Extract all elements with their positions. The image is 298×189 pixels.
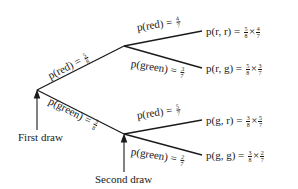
branch-green-red — [124, 120, 202, 134]
second-draw-caption: Second draw — [95, 173, 152, 185]
outcome-rg: p(r, g) = 58×37 — [206, 63, 263, 76]
fraction: 47 — [175, 15, 181, 28]
outcome-gg: p(g, g) = 38×27 — [206, 150, 265, 163]
fraction: 57 — [175, 103, 181, 116]
outcome-rr: p(r, r) = 58×47 — [206, 26, 261, 39]
first-draw-arrowhead-icon — [35, 91, 40, 98]
branch-red-red — [124, 31, 202, 46]
first-draw-caption: First draw — [18, 131, 63, 143]
second-draw-arrowhead-icon — [122, 135, 127, 142]
fraction: 27 — [179, 154, 185, 167]
fraction: 37 — [179, 66, 185, 79]
outcome-gr: p(g, r) = 38×57 — [206, 115, 263, 128]
